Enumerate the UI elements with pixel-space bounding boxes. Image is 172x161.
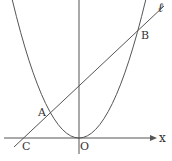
point-c-label: C — [22, 140, 30, 153]
origin-label: O — [80, 140, 89, 153]
diagram: ℓ B A C O x — [0, 0, 172, 161]
point-a-label: A — [37, 106, 47, 119]
x-axis-arrow-icon — [150, 135, 157, 141]
line-l — [14, 6, 164, 147]
point-b-label: B — [141, 29, 149, 42]
x-axis-label: x — [159, 131, 166, 145]
line-l-label: ℓ — [158, 0, 164, 15]
